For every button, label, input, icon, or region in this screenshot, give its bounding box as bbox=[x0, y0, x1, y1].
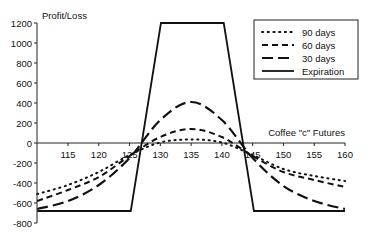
y-axis: 120010008006004002000-200-400-600-800 bbox=[11, 18, 37, 229]
y-tick-label: 1000 bbox=[11, 38, 32, 49]
y-tick-label: 400 bbox=[16, 98, 32, 109]
legend-label: 90 days bbox=[302, 27, 336, 38]
x-tick-label: 150 bbox=[276, 149, 292, 160]
legend-label: 60 days bbox=[302, 40, 336, 51]
profit-loss-chart: 120010008006004002000-200-400-600-800 11… bbox=[0, 0, 371, 239]
x-tick-label: 155 bbox=[306, 149, 322, 160]
series-line-90-days bbox=[37, 140, 345, 195]
y-tick-label: -400 bbox=[13, 178, 32, 189]
x-tick-label: 115 bbox=[60, 149, 75, 160]
y-tick-label: 800 bbox=[16, 58, 32, 69]
x-tick-label: 140 bbox=[214, 149, 230, 160]
y-tick-label: -200 bbox=[13, 158, 32, 169]
x-tick-label: 130 bbox=[152, 149, 168, 160]
legend-label: Expiration bbox=[302, 66, 344, 77]
y-tick-label: -800 bbox=[13, 218, 32, 229]
y-tick-label: -600 bbox=[13, 198, 32, 209]
y-tick-label: 1200 bbox=[11, 18, 32, 29]
x-tick-label: 135 bbox=[183, 149, 199, 160]
y-tick-label: 0 bbox=[27, 138, 32, 149]
x-axis: 115120125130135140145150155160 bbox=[37, 143, 353, 160]
legend: 90 days60 days30 daysExpiration bbox=[254, 20, 358, 79]
y-tick-label: 600 bbox=[16, 78, 32, 89]
x-tick-label: 120 bbox=[91, 149, 107, 160]
y-axis-title: Profit/Loss bbox=[42, 10, 87, 21]
x-tick-label: 160 bbox=[337, 149, 353, 160]
legend-label: 30 days bbox=[302, 53, 336, 64]
y-tick-label: 200 bbox=[16, 118, 32, 129]
x-axis-title: Coffee "c" Futures bbox=[268, 127, 345, 138]
